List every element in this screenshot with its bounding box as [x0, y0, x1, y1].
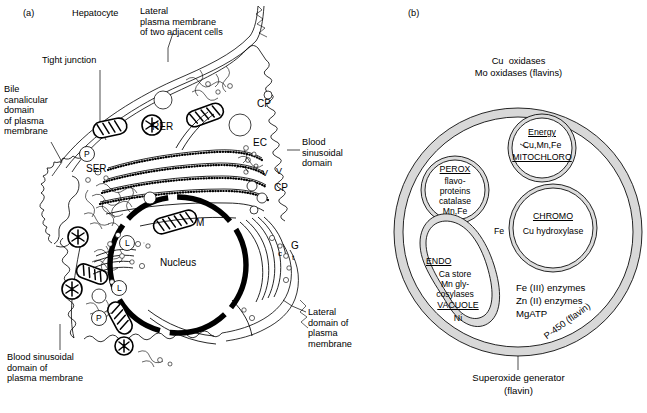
perox-heading: PEROX	[424, 164, 486, 175]
perox-line-4: Mn,Fe	[424, 206, 486, 217]
mitochloro-heading: Energy	[511, 127, 573, 138]
caption-flavin: (flavin)	[390, 386, 647, 397]
leader-bile-canalicular	[51, 142, 62, 176]
label-coated-pit-lower: CP	[274, 183, 288, 194]
panel-b-cell-schematic: (b) Cu oxidases Mo oxidases (flavins)	[390, 0, 647, 413]
leader-lateral-plasma-membrane	[168, 33, 173, 62]
label-golgi-cis: c	[278, 249, 282, 260]
label-vesicle-right: V	[276, 166, 282, 177]
cell-outline-bottom-microvilli	[84, 331, 222, 342]
apical-tubules	[186, 66, 232, 100]
endo-heading: ENDO	[426, 256, 474, 267]
label-golgi: G	[291, 241, 299, 252]
label-coated-pit-upper: CP	[257, 99, 271, 110]
label-peroxisome-lower: P	[96, 313, 102, 324]
vacuole-heading: VACUOLE	[424, 300, 492, 311]
label-vesicle-left: V	[262, 168, 268, 179]
chromo-heading: CHROMO	[516, 211, 590, 222]
hepatocyte-drawing	[0, 0, 390, 413]
caption-superoxide-generator: Superoxide generator	[390, 373, 647, 384]
cell-outline-right-microvilli	[264, 60, 287, 221]
chromo-line-1: Cu hydroxylase	[511, 226, 595, 237]
cytosol-line-zn-enzymes: Zn (II) enzymes	[516, 296, 583, 307]
adjacent-cell-microvilli-lower	[300, 300, 308, 328]
label-lysosome-upper: L	[125, 238, 130, 249]
chromo-outside-label-fe: Fe	[494, 226, 504, 237]
label-peroxisome-upper: P	[84, 149, 90, 160]
label-ser: SER	[86, 164, 107, 175]
label-golgi-trans: t	[292, 253, 294, 264]
cytosol-line-fe-enzymes: Fe (III) enzymes	[516, 283, 585, 294]
endo-line-3: cosylases	[422, 289, 488, 300]
label-rer: RER	[152, 122, 173, 133]
label-endothelial-cell: EC	[253, 138, 267, 149]
label-mitochondrion: M	[196, 218, 204, 229]
label-lysosome-mid: L	[117, 283, 122, 294]
mitochloro-footer: MITOCHLORO	[503, 152, 581, 163]
cytosol-line-mgatp: MgATP	[516, 309, 547, 320]
label-nucleus: Nucleus	[160, 258, 196, 269]
vacuole-line-1: Ni	[424, 313, 492, 324]
panel-a-hepatocyte: (a) Hepatocyte Lateral plasma membrane o…	[0, 0, 390, 413]
mitochloro-metals: Cu,Mn,Fe	[511, 140, 573, 151]
leader-lateral-domain	[283, 300, 306, 312]
